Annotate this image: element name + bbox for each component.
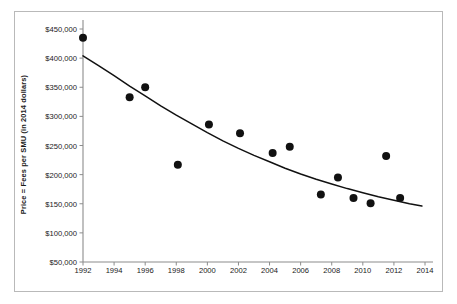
data-point bbox=[205, 121, 213, 129]
data-point bbox=[396, 194, 404, 202]
data-point bbox=[317, 190, 325, 198]
data-point-group bbox=[79, 34, 404, 207]
data-point bbox=[174, 161, 182, 169]
data-point bbox=[236, 129, 244, 137]
data-point bbox=[286, 143, 294, 151]
data-point bbox=[141, 83, 149, 91]
data-point bbox=[349, 194, 357, 202]
data-point bbox=[367, 199, 375, 207]
trendline bbox=[83, 56, 422, 206]
data-point bbox=[382, 152, 390, 160]
data-point bbox=[334, 174, 342, 182]
data-point bbox=[79, 34, 87, 42]
data-point bbox=[269, 149, 277, 157]
axis-lines bbox=[83, 20, 433, 262]
data-point bbox=[126, 93, 134, 101]
chart-canvas bbox=[0, 0, 457, 304]
chart-plot-area: Price = Fees per SMU (in 2014 dollars) $… bbox=[0, 0, 457, 304]
